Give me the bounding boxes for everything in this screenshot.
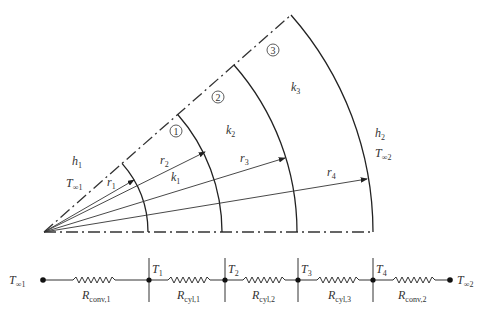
label-r4: r4: [327, 165, 336, 181]
radius-arrow-r4: [44, 179, 367, 232]
label-node-T4: T4: [376, 262, 387, 278]
label-k3: k3: [291, 80, 300, 96]
label-T-inf1: T∞1: [66, 176, 82, 192]
label-r1: r1: [107, 175, 116, 191]
label-node-T3: T3: [301, 262, 312, 278]
label-r2: r2: [160, 153, 169, 169]
diagram-canvas: r1 r2 r3 r4 k1 k2 k3 1 2 3 h1 T∞1 h2 T∞2: [0, 0, 496, 319]
label-node-T-inf2: T∞2: [457, 273, 473, 289]
node-T4: [370, 277, 375, 282]
svg-text:2: 2: [216, 92, 221, 103]
radius-arrow-r2: [44, 152, 205, 232]
label-R-conv2: Rconv,2: [397, 288, 426, 304]
label-R-cyl1: Rcyl,1: [176, 288, 200, 304]
diagram-root: r1 r2 r3 r4 k1 k2 k3 1 2 3 h1 T∞1 h2 T∞2: [0, 0, 496, 319]
label-node-T-inf1: T∞1: [9, 273, 25, 289]
label-k1: k1: [171, 170, 180, 186]
layer-marker-2: 2: [212, 91, 224, 103]
centerline-top: [44, 15, 291, 232]
node-T3: [295, 277, 300, 282]
layer-marker-3: 3: [267, 44, 279, 56]
svg-text:3: 3: [271, 45, 276, 56]
node-T2: [222, 277, 227, 282]
label-k2: k2: [226, 123, 235, 139]
label-T-inf2: T∞2: [375, 146, 391, 162]
label-r3: r3: [240, 151, 249, 167]
node-T1: [146, 277, 151, 282]
node-T-inf1: [40, 277, 46, 283]
arc-r4: [291, 15, 373, 232]
arc-r1: [122, 163, 148, 232]
label-R-cyl3: Rcyl,3: [327, 288, 351, 304]
arc-r3: [234, 65, 297, 232]
label-node-T1: T1: [152, 262, 163, 278]
arc-r2: [178, 115, 222, 233]
label-R-conv1: Rconv,1: [81, 288, 110, 304]
svg-text:1: 1: [174, 126, 179, 137]
node-T-inf2: [447, 277, 453, 283]
label-h1: h1: [72, 154, 82, 170]
label-h2: h2: [375, 126, 385, 142]
label-R-cyl2: Rcyl,2: [251, 288, 275, 304]
layer-marker-1: 1: [170, 125, 182, 137]
label-node-T2: T2: [228, 262, 239, 278]
